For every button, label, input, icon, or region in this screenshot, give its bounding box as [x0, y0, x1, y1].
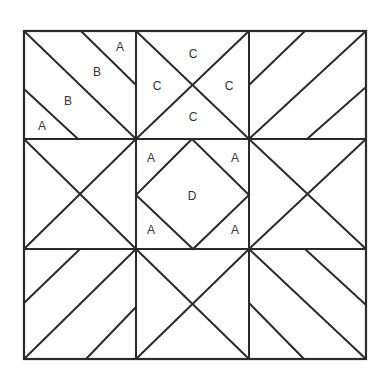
piece-label: C: [189, 47, 198, 61]
patch-bottom-right: [249, 249, 366, 359]
piece-label: A: [231, 151, 239, 165]
piece-label: A: [38, 119, 46, 133]
patch-middle-left: [24, 139, 136, 249]
patch-bottom-middle: [136, 249, 249, 359]
piece-label: A: [147, 151, 155, 165]
piece-label: A: [116, 40, 124, 54]
patch-bottom-left: [24, 249, 136, 359]
piece-label: B: [64, 94, 72, 108]
piece-label: A: [147, 223, 155, 237]
patch-middle-right: [249, 139, 366, 249]
piece-label: C: [225, 79, 234, 93]
quilt-block-diagram: A B B A C C C C A A D A A: [0, 0, 380, 381]
patch-top-right: [249, 31, 366, 139]
piece-label: D: [188, 189, 197, 203]
piece-label: A: [231, 223, 239, 237]
piece-label: C: [153, 79, 162, 93]
piece-label: B: [93, 65, 101, 79]
piece-label: C: [189, 110, 198, 124]
